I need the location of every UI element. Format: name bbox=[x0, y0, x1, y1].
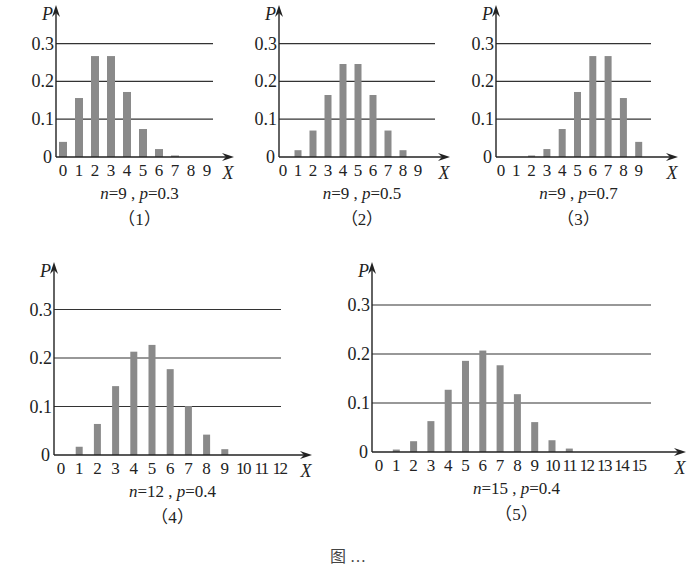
x-axis-label: X bbox=[674, 458, 687, 478]
x-tick-label: 4 bbox=[558, 161, 567, 180]
x-tick-label: 4 bbox=[339, 161, 348, 180]
chart-number: （1） bbox=[118, 210, 161, 229]
chart-parameters: n=12 , p=0.4 bbox=[129, 482, 217, 501]
x-tick-label: 11 bbox=[255, 459, 269, 478]
bar-x-3 bbox=[427, 421, 434, 452]
bar-x-7 bbox=[605, 56, 612, 157]
x-tick-label: 9 bbox=[414, 161, 423, 180]
y-tick-label-zero: 0 bbox=[41, 445, 50, 465]
x-tick-label: 2 bbox=[93, 459, 102, 478]
chart-1: 0.10.20.300123456789PXn=9 , p=0.3（1） bbox=[32, 4, 235, 229]
x-axis-label: X bbox=[666, 163, 679, 183]
y-tick-label-zero: 0 bbox=[359, 442, 368, 462]
x-tick-label: 1 bbox=[75, 459, 84, 478]
chart-4: 0.10.20.300123456789101112PXn=12 , p=0.4… bbox=[30, 261, 313, 527]
bar-x-4 bbox=[130, 352, 137, 455]
x-tick-label: 8 bbox=[619, 161, 628, 180]
x-tick-label: 6 bbox=[479, 456, 488, 475]
bar-x-5 bbox=[574, 92, 581, 157]
bar-x-6 bbox=[370, 95, 377, 157]
x-tick-label: 2 bbox=[527, 161, 536, 180]
x-tick-label: 5 bbox=[139, 161, 148, 180]
y-tick-label: 0.3 bbox=[32, 34, 55, 54]
figure-caption: 图 … bbox=[330, 548, 366, 565]
x-tick-label: 3 bbox=[111, 459, 120, 478]
bar-x-2 bbox=[410, 441, 417, 452]
x-tick-label: 7 bbox=[171, 161, 180, 180]
x-tick-label: 1 bbox=[512, 161, 521, 180]
bar-x-10 bbox=[549, 440, 556, 452]
y-axis-label: P bbox=[39, 261, 51, 281]
y-tick-label: 0.3 bbox=[472, 34, 495, 54]
bar-x-4 bbox=[445, 390, 452, 452]
bar-x-6 bbox=[167, 369, 174, 455]
y-tick-label: 0.2 bbox=[255, 71, 278, 91]
x-axis-label: X bbox=[222, 163, 235, 183]
x-tick-label: 2 bbox=[309, 161, 318, 180]
bar-x-1 bbox=[295, 150, 302, 157]
bar-x-2 bbox=[91, 56, 99, 157]
x-tick-label: 8 bbox=[187, 161, 196, 180]
x-tick-label: 6 bbox=[155, 161, 164, 180]
bar-x-1 bbox=[76, 447, 83, 455]
bar-x-9 bbox=[221, 449, 228, 455]
bar-x-2 bbox=[94, 424, 101, 455]
bar-x-6 bbox=[479, 351, 486, 452]
x-tick-label: 5 bbox=[354, 161, 363, 180]
chart-number: （3） bbox=[557, 210, 600, 229]
x-tick-label: 1 bbox=[294, 161, 303, 180]
bar-x-5 bbox=[355, 64, 362, 157]
x-tick-label: 5 bbox=[461, 456, 470, 475]
x-tick-label: 4 bbox=[130, 459, 139, 478]
x-axis-label: X bbox=[438, 163, 451, 183]
bar-x-6 bbox=[589, 56, 596, 157]
y-tick-label: 0.1 bbox=[348, 393, 371, 413]
x-tick-label: 7 bbox=[384, 161, 393, 180]
bar-x-1 bbox=[75, 98, 83, 157]
chart-parameters: n=9 , p=0.5 bbox=[323, 184, 402, 203]
x-tick-label: 7 bbox=[496, 456, 505, 475]
x-tick-label: 0 bbox=[57, 459, 66, 478]
y-tick-label-zero: 0 bbox=[43, 147, 52, 167]
y-tick-label: 0.3 bbox=[30, 300, 53, 320]
y-tick-label: 0.3 bbox=[255, 34, 278, 54]
y-tick-label: 0.1 bbox=[32, 109, 55, 129]
x-tick-label: 0 bbox=[279, 161, 288, 180]
x-tick-label: 6 bbox=[369, 161, 378, 180]
x-tick-label: 8 bbox=[399, 161, 408, 180]
bar-x-7 bbox=[497, 365, 504, 452]
x-tick-label: 9 bbox=[634, 161, 643, 180]
bar-x-4 bbox=[340, 64, 347, 157]
chart-5: 0.10.20.300123456789101112131415PXn=15 ,… bbox=[348, 261, 687, 524]
bar-x-8 bbox=[400, 150, 407, 157]
chart-3: 0.10.20.300123456789PXn=9 , p=0.7（3） bbox=[472, 4, 679, 229]
x-tick-label: 0 bbox=[375, 456, 384, 475]
x-tick-label: 5 bbox=[573, 161, 582, 180]
bar-x-3 bbox=[543, 149, 550, 157]
y-tick-label: 0.2 bbox=[30, 348, 53, 368]
chart-parameters: n=9 , p=0.3 bbox=[100, 184, 179, 203]
x-tick-label: 6 bbox=[166, 459, 175, 478]
x-tick-label: 1 bbox=[75, 161, 84, 180]
x-tick-label: 11 bbox=[563, 456, 577, 475]
y-axis-label: P bbox=[357, 261, 369, 281]
chart-parameters: n=15 , p=0.4 bbox=[473, 479, 561, 498]
bar-x-4 bbox=[123, 92, 131, 157]
x-tick-label: 10 bbox=[236, 459, 251, 478]
x-tick-label: 3 bbox=[324, 161, 333, 180]
bar-x-7 bbox=[185, 406, 192, 455]
y-axis-label: P bbox=[264, 4, 276, 24]
y-tick-label: 0.2 bbox=[348, 344, 371, 364]
x-tick-label: 5 bbox=[148, 459, 157, 478]
bar-x-8 bbox=[203, 435, 210, 455]
bar-x-6 bbox=[155, 149, 163, 157]
y-tick-label: 0.2 bbox=[472, 71, 495, 91]
y-tick-label: 0.1 bbox=[255, 109, 278, 129]
x-tick-label: 2 bbox=[409, 456, 418, 475]
x-tick-label: 6 bbox=[589, 161, 598, 180]
x-tick-label: 1 bbox=[392, 456, 401, 475]
x-tick-label: 3 bbox=[543, 161, 552, 180]
x-tick-label: 2 bbox=[91, 161, 100, 180]
bar-x-0 bbox=[59, 142, 67, 157]
bar-x-8 bbox=[514, 394, 521, 452]
